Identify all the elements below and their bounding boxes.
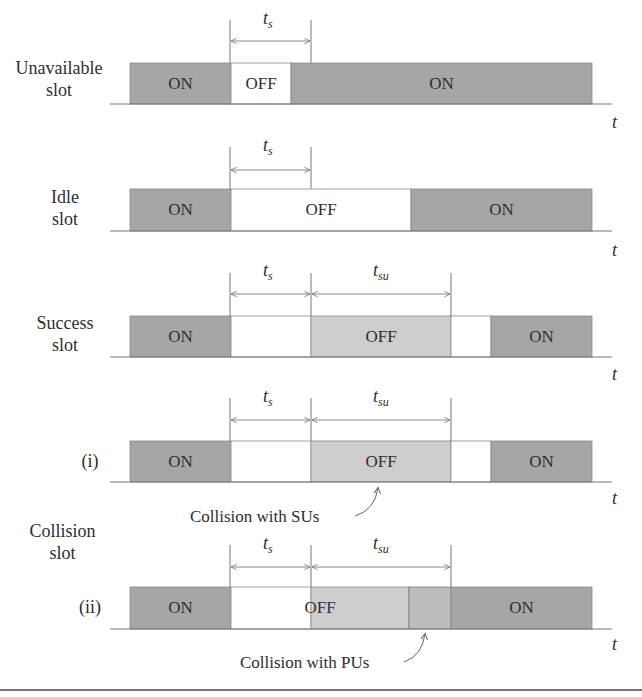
segment-label: ON — [130, 74, 231, 94]
ts-label: ts — [263, 533, 273, 557]
segment-label: ON — [130, 200, 231, 220]
segment-label: ON — [491, 327, 592, 347]
row-label-collision-ii: (ii) — [70, 596, 110, 618]
annotation-collision-su: Collision with SUs — [190, 507, 319, 527]
tsu-label: tsu — [373, 260, 389, 284]
annotation-collision-pu: Collision with PUs — [240, 653, 369, 673]
segment-label: ON — [130, 598, 231, 618]
segment-label: ON — [411, 200, 592, 220]
row-label-idle: Idle slot — [40, 186, 90, 230]
axis-t-label: t — [612, 240, 617, 261]
segment-idle — [231, 441, 311, 482]
collision-su-arrow — [355, 488, 378, 516]
ts-label: ts — [263, 135, 273, 159]
segment-label: ON — [130, 327, 231, 347]
segment-idle — [451, 316, 491, 357]
tsu-label: tsu — [373, 533, 389, 557]
segment-label: ON — [291, 74, 592, 94]
ts-label: ts — [263, 260, 273, 284]
segment-label: ON — [451, 598, 592, 618]
segment-label: OFF — [231, 74, 291, 94]
segment-label: OFF — [311, 327, 451, 347]
group-label-collision: Collision slot — [15, 520, 110, 564]
row-label-collision-i: (i) — [70, 450, 110, 472]
axis-t-label: t — [612, 112, 617, 133]
segment-idle — [451, 441, 491, 482]
segment-label: ON — [130, 452, 231, 472]
segment-label: ON — [491, 452, 592, 472]
axis-t-label: t — [612, 364, 617, 385]
tsu-label: tsu — [373, 386, 389, 410]
ts-label: ts — [263, 8, 273, 32]
collision-pu-arrow — [404, 634, 425, 662]
ts-label: ts — [263, 386, 273, 410]
axis-t-label: t — [612, 488, 617, 509]
segment-overlap — [409, 587, 451, 629]
segment-label: OFF — [311, 452, 451, 472]
segment-label: OFF — [290, 598, 350, 618]
row-label-unavailable: Unavailable slot — [4, 57, 114, 101]
segment-idle — [231, 316, 311, 357]
row-label-success: Success slot — [20, 312, 110, 356]
axis-t-label: t — [612, 634, 617, 655]
segment-label: OFF — [231, 200, 411, 220]
